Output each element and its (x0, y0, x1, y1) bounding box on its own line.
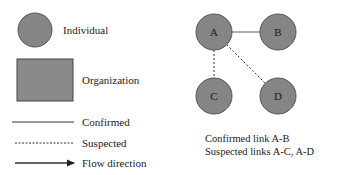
legend-organization-rectangle (17, 59, 73, 101)
node-B: B (260, 14, 296, 50)
node-label-C: C (210, 90, 217, 102)
legend-individual-circle (18, 13, 52, 47)
node-label-A: A (210, 26, 218, 38)
network-nodes: ABCD (196, 14, 296, 114)
node-label-B: B (274, 26, 281, 38)
legend-suspected-label: Suspected (82, 137, 127, 150)
link-A-D-suspected (227, 45, 266, 84)
legend-individual-label: Individual (63, 24, 108, 37)
node-label-D: D (274, 90, 282, 102)
caption-confirmed: Confirmed link A-B (205, 133, 290, 145)
node-C: C (196, 78, 232, 114)
legend-flow-label: Flow direction (82, 157, 146, 170)
node-D: D (260, 78, 296, 114)
caption-suspected: Suspected links A-C, A-D (205, 146, 314, 158)
node-A: A (196, 14, 232, 50)
legend-confirmed-label: Confirmed (82, 116, 130, 129)
legend-organization-label: Organization (82, 74, 139, 87)
